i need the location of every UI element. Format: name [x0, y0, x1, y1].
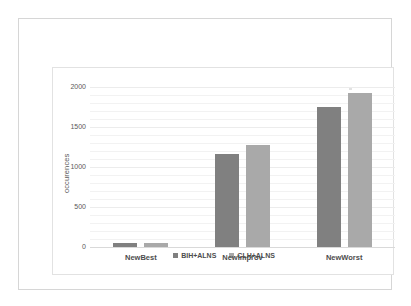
y-axis-tick-label: 1500	[53, 123, 86, 131]
chart-container: occurences BIH+ALNS CLH+ALNS 05001000150…	[52, 67, 394, 275]
x-axis-category-label: NewBest	[101, 253, 181, 262]
bar-newworst-bih-alns[interactable]	[317, 107, 341, 247]
x-axis-category-label: NewImprov	[203, 253, 283, 262]
bar-newworst-clh-alns[interactable]	[348, 93, 372, 247]
bar-newbest-bih-alns[interactable]	[113, 243, 137, 247]
plot-area	[90, 87, 395, 247]
bar-newbest-clh-alns[interactable]	[144, 243, 168, 247]
page-canvas: occurences BIH+ALNS CLH+ALNS 05001000150…	[0, 0, 411, 306]
y-axis-tick-label: 0	[53, 243, 86, 251]
bar-newimprov-bih-alns[interactable]	[215, 154, 239, 247]
bar-newimprov-clh-alns[interactable]	[246, 145, 270, 247]
gridline-major	[90, 87, 395, 88]
x-axis-category-label: NewWorst	[304, 253, 384, 262]
y-axis-tick-label: 1000	[53, 163, 86, 171]
x-axis-line	[90, 247, 395, 248]
document-page-frame: occurences BIH+ALNS CLH+ALNS 05001000150…	[18, 18, 392, 290]
artifact-speck	[349, 88, 352, 90]
y-axis-tick-label: 2000	[53, 83, 86, 91]
y-axis-tick-label: 500	[53, 203, 86, 211]
y-axis-title: occurences	[62, 154, 71, 193]
